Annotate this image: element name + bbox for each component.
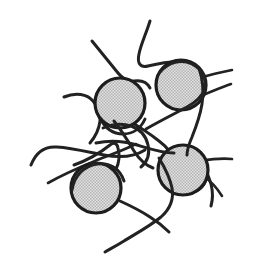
diagram-canvas xyxy=(0,0,257,269)
nanoparticle-lower-left xyxy=(71,163,121,213)
nanoparticle-upper-left xyxy=(95,78,145,128)
nanocomposite-diagram xyxy=(0,0,257,269)
